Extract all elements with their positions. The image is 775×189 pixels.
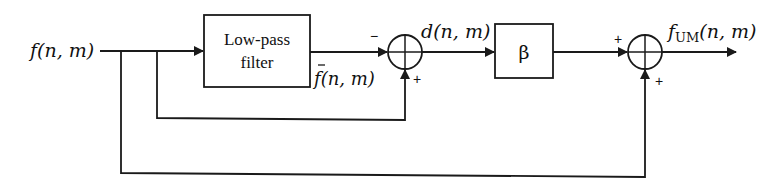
lowpass-label-line1: Low-pass [224, 30, 290, 49]
sum2-bottom-plus-sign: + [655, 73, 663, 89]
output-signal-label: fUM(n, m) [666, 20, 757, 45]
sum1-plus-sign: + [413, 71, 421, 87]
sum1-minus-sign: − [370, 28, 378, 44]
lowpass-filter-block: Low-pass filter [204, 15, 310, 87]
difference-signal-label: d(n, m) [421, 20, 490, 42]
lowpass-label-line2: filter [240, 53, 273, 72]
beta-label: β [519, 41, 530, 63]
unsharp-masking-block-diagram: f(n, m) Low-pass filter f(n, m) − + d(n,… [0, 0, 775, 189]
lowpass-output-label: f(n, m) [312, 65, 375, 89]
sum2-left-plus-sign: + [614, 31, 622, 47]
bypass-path-to-sum2 [121, 51, 645, 177]
summing-junction-1 [388, 35, 422, 69]
gain-beta-block: β [495, 24, 553, 78]
svg-text:f(n, m): f(n, m) [312, 68, 375, 89]
summing-junction-2 [628, 35, 662, 69]
input-signal-label: f(n, m) [28, 39, 94, 61]
